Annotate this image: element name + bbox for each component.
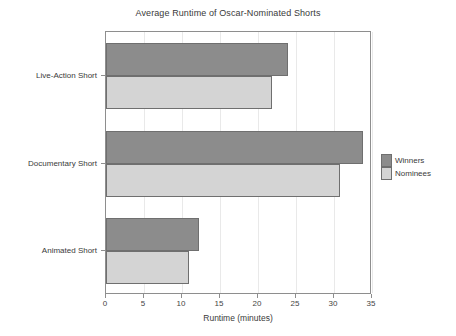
y-tick-mark [101,250,105,251]
bar-nominees-documentary-short [106,164,340,197]
y-tick-label-animated-short: Animated Short [42,246,97,255]
y-tick-label-live-action-short: Live-Action Short [36,70,97,79]
x-tick-mark [371,294,372,298]
x-tick-label-0: 0 [93,299,117,308]
x-tick-label-20: 20 [245,299,269,308]
x-tick-label-10: 10 [169,299,193,308]
x-tick-mark [333,294,334,298]
x-tick-label-35: 35 [359,299,383,308]
x-tick-mark [257,294,258,298]
bar-nominees-live-action-short [106,76,272,109]
legend-swatch-nominees [381,167,392,180]
x-tick-mark [181,294,182,298]
legend-item-nominees: Nominees [381,167,431,180]
y-tick-mark [101,163,105,164]
legend-label-winners: Winners [395,156,424,165]
x-tick-mark [219,294,220,298]
bar-nominees-animated-short [106,251,189,284]
x-axis-label: Runtime (minutes) [105,313,371,323]
legend-swatch-winners [381,154,392,167]
bar-winners-live-action-short [106,43,288,76]
plot-area [105,31,371,294]
x-tick-label-25: 25 [283,299,307,308]
bar-winners-animated-short [106,218,199,251]
x-tick-mark [143,294,144,298]
chart-title: Average Runtime of Oscar-Nominated Short… [0,8,456,18]
x-tick-mark [105,294,106,298]
chart-screenshot: Average Runtime of Oscar-Nominated Short… [0,0,456,336]
x-tick-label-5: 5 [131,299,155,308]
legend-item-winners: Winners [381,154,431,167]
x-tick-label-15: 15 [207,299,231,308]
bar-winners-documentary-short [106,131,363,164]
x-tick-label-30: 30 [321,299,345,308]
x-tick-mark [295,294,296,298]
gridline-x [372,32,373,293]
plot-inner [106,32,370,293]
chart-legend: Winners Nominees [381,154,431,180]
y-tick-mark [101,75,105,76]
y-tick-label-documentary-short: Documentary Short [28,158,97,167]
legend-label-nominees: Nominees [395,169,431,178]
